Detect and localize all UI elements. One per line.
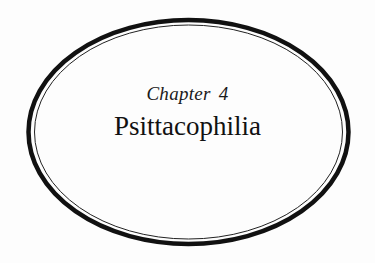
- chapter-title: Psittacophilia: [0, 111, 375, 142]
- chapter-number: Chapter 4: [0, 83, 375, 105]
- chapter-title-page: Chapter 4 Psittacophilia: [0, 0, 375, 263]
